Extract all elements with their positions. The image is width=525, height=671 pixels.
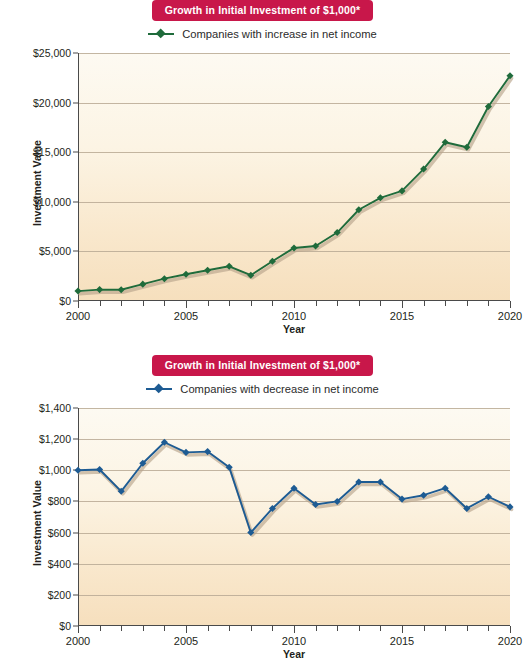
x-axis-tick-label: 2010 <box>282 310 306 322</box>
figure-page: Growth in Initial Investment of $1,000* … <box>0 0 525 671</box>
chart-legend-decrease: Companies with decrease in net income <box>0 383 525 395</box>
x-axis-tick <box>78 301 79 308</box>
y-axis-tick-label: $0 <box>59 620 71 632</box>
x-axis-tick <box>380 626 381 631</box>
chart-title-badge: Growth in Initial Investment of $1,000* <box>152 355 373 376</box>
y-axis-tick-label: $20,000 <box>33 97 71 109</box>
x-axis-tick <box>488 626 489 631</box>
x-axis-tick <box>445 626 446 631</box>
x-axis-tick-label: 2000 <box>66 635 90 647</box>
y-axis-tick-label: $15,000 <box>33 146 71 158</box>
y-axis-tick-label: $800 <box>48 495 71 507</box>
x-axis-tick <box>143 301 144 306</box>
x-axis-tick <box>164 301 165 306</box>
x-axis-tick <box>380 301 381 306</box>
x-axis-tick-label: 2020 <box>498 635 522 647</box>
x-axis-tick-label: 2015 <box>390 635 414 647</box>
x-axis-tick <box>208 626 209 631</box>
y-axis-tick-label: $1,200 <box>39 433 71 445</box>
y-axis-tick-label: $1,400 <box>39 402 71 414</box>
plot-area-decrease: $0$200$400$600$800$1,000$1,200$1,4002000… <box>78 408 510 626</box>
x-axis-tick <box>316 626 317 631</box>
legend-label-decrease: Companies with decrease in net income <box>180 383 378 395</box>
x-axis-tick <box>78 626 79 633</box>
x-axis-tick <box>510 626 511 633</box>
x-axis-tick <box>186 626 187 633</box>
x-axis-tick <box>229 301 230 306</box>
x-axis-tick <box>359 301 360 306</box>
x-axis-tick <box>143 626 144 631</box>
series-line-shadow <box>80 78 512 293</box>
x-axis-tick <box>337 301 338 306</box>
plot-area-increase: $0$5,000$10,000$15,000$20,000$25,0002000… <box>78 53 510 301</box>
chart-title-badge: Growth in Initial Investment of $1,000* <box>152 0 373 21</box>
x-axis-tick <box>100 626 101 631</box>
x-axis-tick <box>510 301 511 308</box>
y-axis-tick-label: $400 <box>48 558 71 570</box>
series-line <box>78 76 510 291</box>
x-axis-tick-label: 2015 <box>390 310 414 322</box>
x-axis-tick <box>445 301 446 306</box>
y-axis-tick-label: $200 <box>48 589 71 601</box>
x-axis-tick <box>402 301 403 308</box>
legend-label-increase: Companies with increase in net income <box>182 28 377 40</box>
x-axis-tick-label: 2005 <box>174 635 198 647</box>
x-axis-tick <box>294 301 295 308</box>
x-axis-title: Year <box>78 323 510 335</box>
series-layer <box>78 408 510 626</box>
x-axis-tick <box>402 626 403 633</box>
x-axis-tick <box>467 626 468 631</box>
x-axis-tick <box>424 301 425 306</box>
chart-panel-increase: Growth in Initial Investment of $1,000* … <box>0 0 525 355</box>
x-axis-tick-label: 2000 <box>66 310 90 322</box>
y-axis-tick-label: $25,000 <box>33 47 71 59</box>
y-axis-tick-label: $10,000 <box>33 196 71 208</box>
x-axis-tick <box>359 626 360 631</box>
y-axis-tick-label: $0 <box>59 295 71 307</box>
x-axis-tick <box>272 626 273 631</box>
x-axis-tick <box>100 301 101 306</box>
x-axis-tick <box>121 301 122 306</box>
series-layer <box>78 53 510 301</box>
legend-marker-icon <box>148 28 174 40</box>
x-axis-tick-label: 2010 <box>282 635 306 647</box>
x-axis-tick <box>251 626 252 631</box>
chart-canvas-decrease: Investment Value Year $0$200$400$600$800… <box>0 402 525 664</box>
chart-title-badge-wrap: Growth in Initial Investment of $1,000* <box>0 0 525 21</box>
chart-canvas-increase: Investment Value Year $0$5,000$10,000$15… <box>0 47 525 339</box>
y-axis-tick-label: $600 <box>48 527 71 539</box>
x-axis-tick <box>251 301 252 306</box>
x-axis-tick <box>208 301 209 306</box>
x-axis-tick <box>164 626 165 631</box>
x-axis-tick <box>121 626 122 631</box>
x-axis-tick <box>272 301 273 306</box>
x-axis-tick <box>294 626 295 633</box>
y-axis-title: Investment Value <box>31 480 43 566</box>
x-axis-tick <box>229 626 230 631</box>
x-axis-tick-label: 2005 <box>174 310 198 322</box>
y-axis-tick-label: $5,000 <box>39 245 71 257</box>
x-axis-tick <box>337 626 338 631</box>
chart-legend-increase: Companies with increase in net income <box>0 28 525 40</box>
x-axis-tick-label: 2020 <box>498 310 522 322</box>
x-axis-tick <box>467 301 468 306</box>
y-axis-tick-label: $1,000 <box>39 464 71 476</box>
legend-marker-icon <box>146 383 172 395</box>
x-axis-tick <box>488 301 489 306</box>
chart-panel-decrease: Growth in Initial Investment of $1,000* … <box>0 355 525 671</box>
x-axis-title: Year <box>78 648 510 660</box>
x-axis-tick <box>424 626 425 631</box>
chart-title-badge-wrap: Growth in Initial Investment of $1,000* <box>0 355 525 376</box>
x-axis-tick <box>186 301 187 308</box>
x-axis-tick <box>316 301 317 306</box>
